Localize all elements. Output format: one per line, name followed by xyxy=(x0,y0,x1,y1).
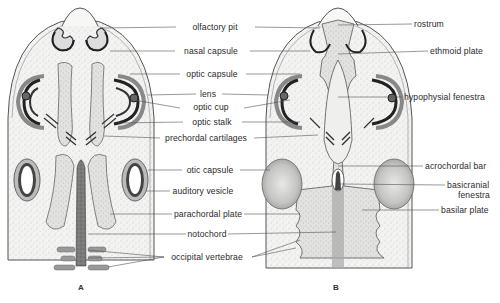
label-acrochordal-bar: acrochordal bar xyxy=(425,161,486,171)
panel-b-drawing xyxy=(262,8,414,268)
panel-a-drawing xyxy=(8,8,154,270)
label-occipital-vertebrae: occipital vertebrae xyxy=(171,252,243,262)
label-optic-cup: optic cup xyxy=(193,102,228,112)
label-optic-capsule: optic capsule xyxy=(186,69,237,79)
label-olfactory-pit: olfactory pit xyxy=(192,22,237,32)
label-ethmoid-plate: ethmoid plate xyxy=(430,46,483,56)
label-hypophysial-fenestra: hypophysial fenestra xyxy=(404,92,485,102)
label-prechordal-cartilages: prechordal cartilages xyxy=(165,133,247,143)
skull-development-diagram xyxy=(0,0,500,303)
label-notochord: notochord xyxy=(187,229,226,239)
label-lens: lens xyxy=(200,89,216,99)
label-parachordal-plate: parachordal plate xyxy=(174,209,242,219)
label-fenestra: fenestra xyxy=(458,190,490,200)
panel-label-b: B xyxy=(333,283,339,292)
label-rostrum: rostrum xyxy=(414,19,444,29)
label-otic-capsule: otic capsule xyxy=(187,165,234,175)
label-optic-stalk: optic stalk xyxy=(192,117,231,127)
label-auditory-vesicle: auditory vesicle xyxy=(173,186,234,196)
label-basicranial: basicranial xyxy=(447,180,489,190)
panel-label-a: A xyxy=(78,283,84,292)
label-nasal-capsule: nasal capsule xyxy=(184,46,238,56)
label-basilar-plate: basilar plate xyxy=(441,205,489,215)
